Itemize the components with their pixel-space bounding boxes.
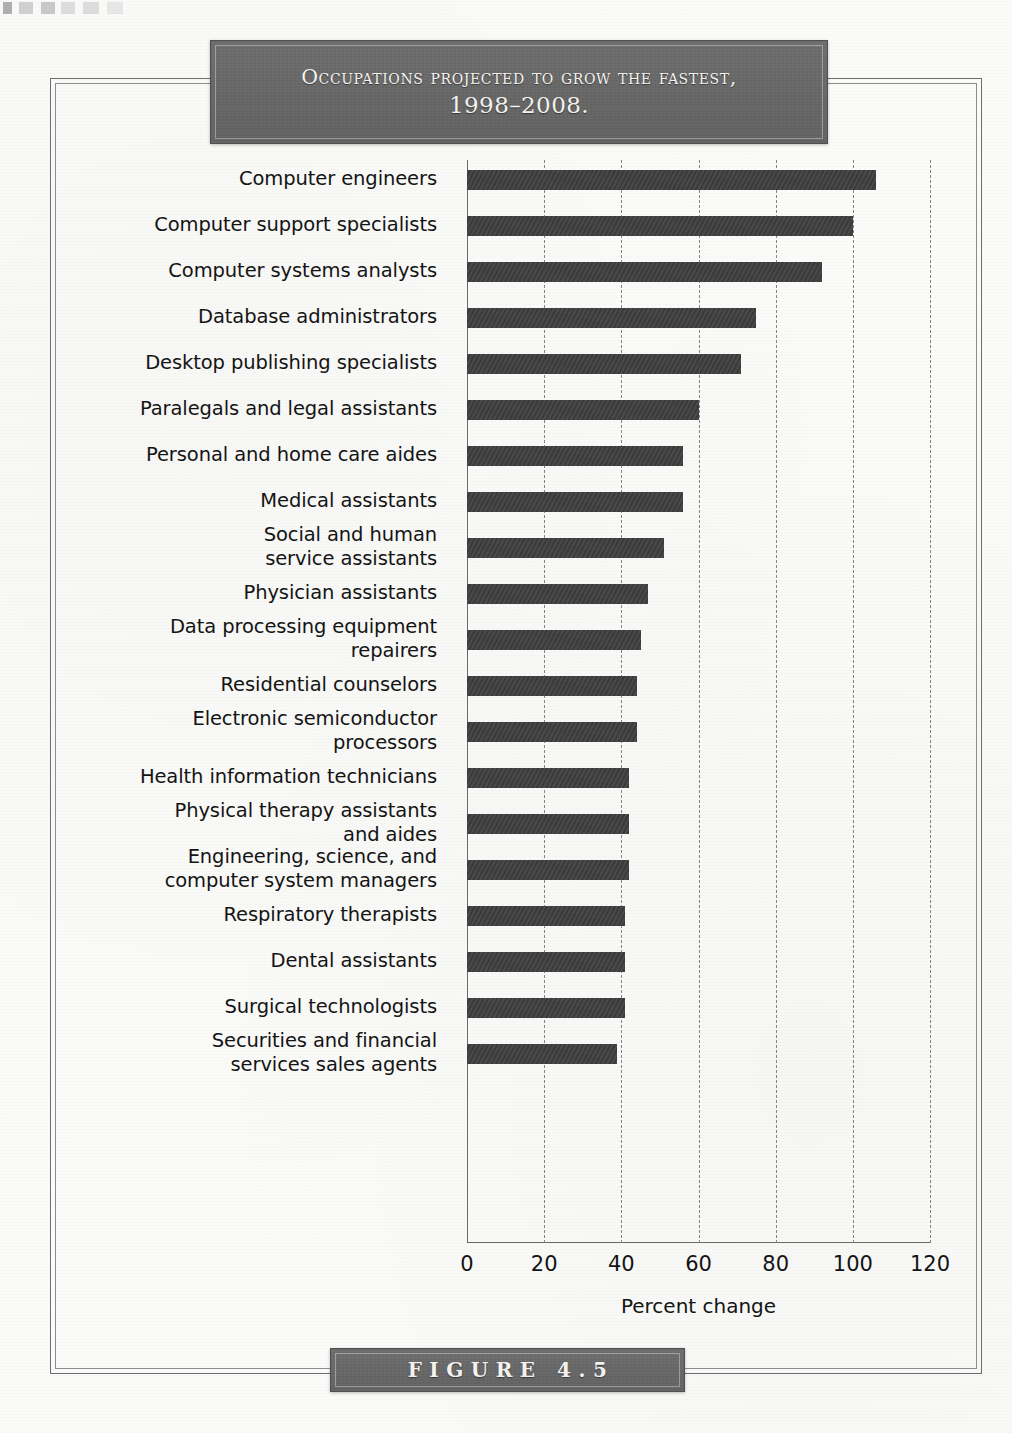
category-label: Health information technicians (62, 765, 437, 789)
category-label-line: Physician assistants (62, 581, 437, 605)
category-label-line: Personal and home care aides (62, 443, 437, 467)
gridline (776, 160, 777, 1243)
category-label-line: Paralegals and legal assistants (62, 397, 437, 421)
gridline (930, 160, 931, 1243)
category-label-line: Computer support specialists (62, 213, 437, 237)
category-label-line: Social and human (62, 523, 437, 547)
value-axis-tick-label: 40 (608, 1252, 635, 1276)
bar (467, 446, 683, 466)
figure-caption-banner: FIGURE 4.5 (330, 1348, 685, 1392)
category-label-line: Data processing equipment (62, 615, 437, 639)
category-label: Computer engineers (62, 167, 437, 191)
bar (467, 538, 664, 558)
category-label-line: Computer engineers (62, 167, 437, 191)
category-label-line: Surgical technologists (62, 995, 437, 1019)
bar (467, 814, 629, 834)
bar (467, 492, 683, 512)
category-label-line: Dental assistants (62, 949, 437, 973)
bar-chart: Computer engineersComputer support speci… (0, 0, 1012, 1433)
category-label-line: Computer systems analysts (62, 259, 437, 283)
gridline (853, 160, 854, 1243)
bar (467, 262, 822, 282)
bar (467, 308, 756, 328)
title-banner: Occupations projected to grow the fastes… (210, 40, 828, 144)
category-label: Data processing equipmentrepairers (62, 615, 437, 663)
value-axis-tick-label: 100 (833, 1252, 873, 1276)
bar (467, 906, 625, 926)
category-label: Dental assistants (62, 949, 437, 973)
plot-area (467, 160, 930, 1243)
category-label-line: Medical assistants (62, 489, 437, 513)
category-label: Desktop publishing specialists (62, 351, 437, 375)
category-label: Electronic semiconductorprocessors (62, 707, 437, 755)
chart-title-line-2: 1998–2008. (449, 92, 589, 119)
category-label-line: and aides (62, 823, 437, 847)
bar (467, 676, 637, 696)
value-axis-tick-label: 60 (685, 1252, 712, 1276)
bar (467, 768, 629, 788)
value-axis-tick-label: 120 (910, 1252, 950, 1276)
category-label: Physician assistants (62, 581, 437, 605)
category-label: Physical therapy assistantsand aides (62, 799, 437, 847)
bar (467, 952, 625, 972)
value-axis-tick-label: 0 (460, 1252, 473, 1276)
category-label-line: Health information technicians (62, 765, 437, 789)
category-label: Medical assistants (62, 489, 437, 513)
chart-title-line-1: Occupations projected to grow the fastes… (301, 65, 737, 89)
value-axis-title: Percent change (467, 1294, 930, 1318)
category-label: Engineering, science, andcomputer system… (62, 845, 437, 893)
category-label-line: Physical therapy assistants (62, 799, 437, 823)
figure-caption-label: FIGURE 4.5 (401, 1358, 615, 1382)
category-label-line: Respiratory therapists (62, 903, 437, 927)
category-label: Residential counselors (62, 673, 437, 697)
category-label: Database administrators (62, 305, 437, 329)
category-label: Computer support specialists (62, 213, 437, 237)
bar (467, 722, 637, 742)
category-label-line: repairers (62, 639, 437, 663)
category-label: Social and humanservice assistants (62, 523, 437, 571)
value-axis-tick-label: 80 (762, 1252, 789, 1276)
category-label-line: Database administrators (62, 305, 437, 329)
category-label: Personal and home care aides (62, 443, 437, 467)
category-label-line: Desktop publishing specialists (62, 351, 437, 375)
category-label: Respiratory therapists (62, 903, 437, 927)
bar (467, 630, 641, 650)
bar (467, 216, 853, 236)
category-label-line: Engineering, science, and (62, 845, 437, 869)
category-label-line: computer system managers (62, 869, 437, 893)
bar (467, 400, 699, 420)
bar (467, 1044, 617, 1064)
bar (467, 584, 648, 604)
value-axis-tick-label: 20 (531, 1252, 558, 1276)
category-label-line: Electronic semiconductor (62, 707, 437, 731)
category-label-line: processors (62, 731, 437, 755)
category-label: Securities and financialservices sales a… (62, 1029, 437, 1077)
bar (467, 860, 629, 880)
category-label-line: service assistants (62, 547, 437, 571)
category-label-line: Securities and financial (62, 1029, 437, 1053)
category-label-line: services sales agents (62, 1053, 437, 1077)
bar (467, 998, 625, 1018)
category-label: Computer systems analysts (62, 259, 437, 283)
bar (467, 170, 876, 190)
category-label: Surgical technologists (62, 995, 437, 1019)
bar (467, 354, 741, 374)
category-label: Paralegals and legal assistants (62, 397, 437, 421)
value-axis-tick-labels: 020406080100120 (467, 1252, 930, 1282)
category-label-line: Residential counselors (62, 673, 437, 697)
